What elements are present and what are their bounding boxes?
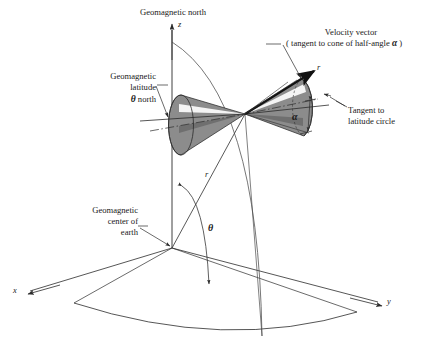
velocity-vector-text-post: ) <box>397 38 402 48</box>
sector-edge-y <box>172 248 357 312</box>
sector-edge-x <box>74 248 172 303</box>
leader-velocity <box>283 45 301 78</box>
tangent-latitude-line1: Tangent to <box>348 105 384 115</box>
leader-center <box>140 228 170 246</box>
equatorial-plane <box>30 248 378 330</box>
geomagnetic-latitude-line1: Geomagnetic <box>56 71 156 81</box>
radius-upper-label: r <box>317 63 320 73</box>
x-axis-line <box>30 248 172 291</box>
polar-angle-arc <box>182 186 209 284</box>
geomagnetic-center-line2: center of <box>38 216 138 226</box>
diagram-canvas <box>0 0 425 338</box>
leader-tangent-arrow <box>324 94 331 96</box>
geomagnetic-coordinate-diagram: Geomagnetic north z x y Velocity vector … <box>0 0 425 338</box>
geomagnetic-north-label: Geomagnetic north <box>103 7 243 17</box>
theta-angle-label: θ <box>208 222 213 234</box>
velocity-vector-label-line2: ( tangent to cone of half-angle α ) <box>286 38 402 49</box>
leader-tangent <box>330 97 345 106</box>
callout-leaders <box>138 44 347 246</box>
radius-lower-label: r <box>205 170 208 180</box>
axis-arrows <box>28 24 382 306</box>
geomagnetic-center-line1: Geomagnetic <box>38 205 138 215</box>
geomagnetic-latitude-line3: θ north <box>56 93 156 104</box>
z-axis-label: z <box>178 20 181 30</box>
equator-arc <box>74 303 357 330</box>
tangent-latitude-line2: latitude circle <box>348 116 395 126</box>
theta-symbol-inline: θ <box>131 93 136 104</box>
leader-latitude <box>156 86 168 117</box>
y-axis-line <box>172 248 378 302</box>
geomagnetic-latitude-line2: latitude <box>56 82 156 92</box>
meridian-lower-segment <box>245 114 262 336</box>
geomagnetic-center-line3: earth <box>38 227 138 237</box>
x-axis-label: x <box>13 286 17 296</box>
velocity-vector-text-pre: ( tangent to cone of half-angle <box>286 38 392 48</box>
velocity-vector-label-line1: Velocity vector <box>286 27 416 37</box>
alpha-angle-label: α <box>292 111 298 123</box>
y-axis-label: y <box>387 297 391 307</box>
geomagnetic-latitude-north-word: north <box>138 94 156 104</box>
